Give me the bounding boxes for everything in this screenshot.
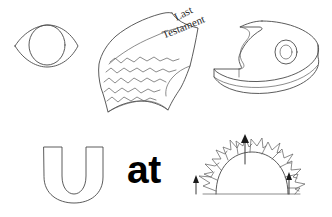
rising-sun-drawing [0,0,332,217]
sun-dome [216,152,288,194]
arrow-up-left [193,175,199,194]
sun-arrows [193,134,292,194]
arrow-up-center [241,134,249,164]
sketch-canvas: Last Testament at [0,0,332,217]
rising-sun-group [193,134,305,194]
